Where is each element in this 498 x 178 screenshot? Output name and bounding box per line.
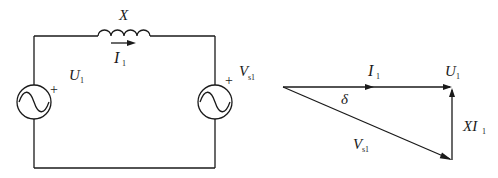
inductor-icon [98, 30, 150, 36]
right-source-polarity: + [225, 73, 233, 88]
svg-text:s1: s1 [362, 145, 369, 154]
svg-text:1: 1 [482, 127, 486, 136]
ac-source-left-icon [17, 85, 51, 119]
phasor-u1-arrow-icon [443, 84, 452, 90]
phasor-vs1-label: V s1 [353, 136, 369, 154]
svg-text:I: I [113, 49, 120, 66]
current-label: I 1 [113, 49, 126, 68]
svg-text:XI: XI [462, 118, 478, 134]
phasor-xi1-arrow-icon [449, 88, 455, 97]
diagram-canvas: X I 1 U 1 + V s1 + I 1 U 1 δ V s1 [0, 0, 498, 178]
ac-source-right-icon [198, 85, 232, 119]
left-source-label: U 1 [69, 67, 84, 85]
svg-text:1: 1 [80, 76, 84, 85]
svg-text:s1: s1 [248, 73, 255, 82]
circuit [17, 30, 232, 168]
left-source-polarity: + [50, 82, 58, 97]
svg-text:I: I [367, 62, 374, 79]
svg-text:1: 1 [456, 72, 460, 81]
inductor-label: X [118, 7, 129, 23]
right-source-label: V s1 [239, 63, 255, 82]
phasor-xi1-label: XI 1 [462, 118, 486, 136]
svg-text:1: 1 [376, 72, 380, 81]
phasor-u1-label: U 1 [445, 63, 460, 81]
phasor-angle-label: δ [341, 91, 349, 107]
phasor-i1-label: I 1 [367, 62, 380, 81]
current-arrow-icon [111, 40, 136, 46]
phasor-vs1-arrow-icon [440, 153, 452, 161]
phasor-i1-arrow-icon [365, 84, 374, 90]
svg-text:1: 1 [122, 59, 126, 68]
